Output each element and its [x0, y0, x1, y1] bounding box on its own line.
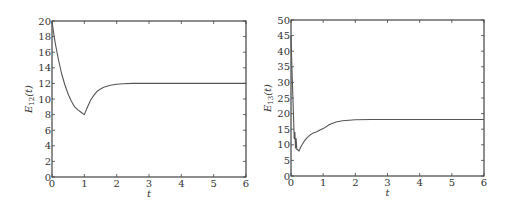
y-tick-label: 20 [277, 108, 290, 119]
y-tick-label: 2 [45, 156, 51, 167]
y-axis-label: E12(t) [23, 85, 36, 114]
y-tick-label: 30 [277, 77, 290, 88]
y-tick-label: 10 [38, 94, 51, 105]
x-tick-label: 1 [320, 177, 326, 188]
x-tick-label: 5 [449, 177, 455, 188]
y-tick-label: 4 [45, 140, 51, 151]
y-tick-label: 0 [45, 172, 51, 183]
y-tick-label: 10 [277, 139, 290, 150]
x-tick-label: 6 [481, 177, 487, 188]
chart-e12-svg: 012345602468101214161820tE12(t) [0, 0, 256, 212]
y-tick-label: 25 [277, 93, 290, 104]
y-tick-label: 40 [277, 46, 290, 57]
x-axis-label: t [147, 188, 152, 199]
chart-e13: 012345605101520253035404550tE13(t) [256, 0, 512, 212]
y-tick-label: 14 [38, 62, 51, 73]
chart-e13-svg: 012345605101520253035404550tE13(t) [256, 0, 512, 212]
y-tick-label: 18 [38, 31, 51, 42]
y-tick-label: 15 [277, 124, 290, 135]
series-line-e13 [291, 36, 484, 151]
y-tick-label: 6 [45, 125, 51, 136]
y-tick-label: 45 [277, 30, 290, 41]
y-tick-label: 35 [277, 61, 290, 72]
plot-area: 012345602468101214161820tE12(t) [23, 16, 249, 200]
x-tick-label: 2 [113, 178, 119, 189]
x-tick-label: 4 [178, 178, 184, 189]
series-line-e12 [52, 21, 246, 115]
x-tick-label: 4 [416, 177, 422, 188]
y-tick-label: 0 [284, 171, 290, 182]
x-axis-label: t [385, 187, 390, 198]
y-tick-label: 12 [38, 78, 51, 89]
x-tick-label: 1 [81, 178, 87, 189]
plot-frame [52, 21, 246, 177]
y-tick-label: 50 [277, 15, 290, 26]
plot-frame [291, 20, 484, 176]
x-tick-label: 6 [243, 178, 249, 189]
chart-e12: 012345602468101214161820tE12(t) [0, 0, 256, 212]
y-tick-label: 8 [45, 109, 51, 120]
y-tick-label: 5 [284, 155, 290, 166]
y-axis-label: E13(t) [262, 84, 275, 113]
y-tick-label: 16 [38, 47, 51, 58]
plot-area: 012345605101520253035404550tE13(t) [262, 15, 487, 199]
x-tick-label: 5 [210, 178, 216, 189]
y-tick-label: 20 [38, 16, 51, 27]
x-tick-label: 2 [352, 177, 358, 188]
